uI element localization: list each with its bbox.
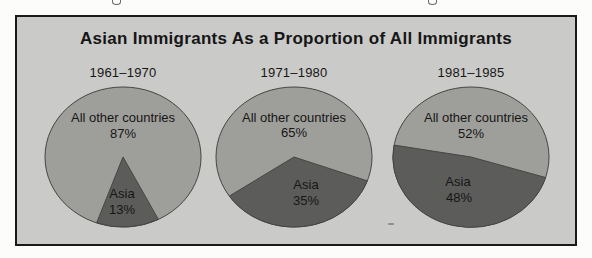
slice-percent-label: 13% bbox=[109, 202, 135, 217]
pie-period-label: 1981–1985 bbox=[438, 65, 505, 80]
slice-percent-label: 35% bbox=[293, 193, 319, 208]
slice-label: All other countries bbox=[71, 110, 175, 125]
slice-label: Asia bbox=[445, 174, 470, 189]
scan-speck bbox=[388, 223, 394, 225]
slice-percent-label: 65% bbox=[281, 125, 307, 140]
pie-svg bbox=[212, 83, 376, 231]
slice-percent-label: 48% bbox=[446, 190, 472, 205]
pie-period-label: 1961–1970 bbox=[90, 65, 157, 80]
slice-label: All other countries bbox=[424, 110, 528, 125]
pie-period-label: 1971–1980 bbox=[261, 65, 328, 80]
slice-percent-label: 87% bbox=[110, 126, 136, 141]
slice-label: All other countries bbox=[242, 110, 346, 125]
pie-charts-container: 1961–1970All other countries87%Asia13%19… bbox=[0, 0, 592, 258]
pie-svg bbox=[389, 83, 553, 231]
figure-page: Asian Immigrants As a Proportion of All … bbox=[0, 0, 592, 258]
slice-label: Asia bbox=[293, 177, 318, 192]
slice-percent-label: 52% bbox=[458, 126, 484, 141]
slice-label: Asia bbox=[109, 186, 134, 201]
